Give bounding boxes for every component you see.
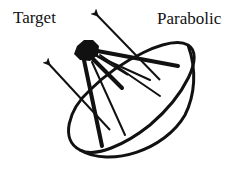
target-receiver xyxy=(74,40,99,61)
parabolic-dish-diagram: Target Parabolic xyxy=(0,0,249,171)
support-struts xyxy=(84,50,178,146)
diagram-drawing xyxy=(0,0,249,171)
ray-left xyxy=(48,63,110,130)
strut-down-left xyxy=(84,60,102,146)
